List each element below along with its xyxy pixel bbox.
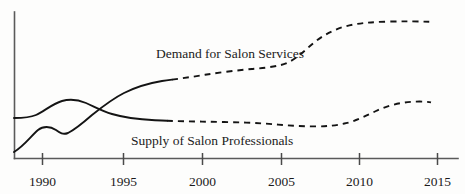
demand-series-label: Demand for Salon Services bbox=[156, 46, 304, 61]
chart-figure: 1990 1995 2000 2005 2010 2015 Demand for… bbox=[0, 0, 465, 194]
x-tick-label-2005: 2005 bbox=[268, 174, 295, 189]
supply-series-solid bbox=[14, 100, 167, 121]
x-tick-label-2015: 2015 bbox=[424, 174, 451, 189]
x-tick-label-2010: 2010 bbox=[346, 174, 373, 189]
salon-supply-demand-line-chart: 1990 1995 2000 2005 2010 2015 Demand for… bbox=[0, 0, 465, 194]
x-tick-label-2000: 2000 bbox=[189, 174, 216, 189]
supply-series-label: Supply of Salon Professionals bbox=[131, 133, 293, 148]
x-axis-tick-labels: 1990 1995 2000 2005 2010 2015 bbox=[29, 174, 451, 189]
x-tick-label-1995: 1995 bbox=[110, 174, 137, 189]
supply-series-dashed bbox=[167, 102, 431, 127]
x-tick-label-1990: 1990 bbox=[29, 174, 56, 189]
